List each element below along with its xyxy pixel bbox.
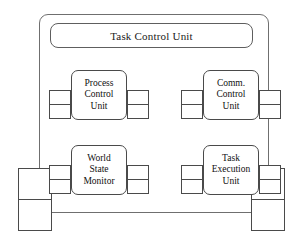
process-control-unit-port-right-upper [127,90,149,105]
task-execution-unit-port-right-upper [259,165,281,180]
task-execution-unit-port-left-upper [181,165,203,180]
module-label-line: Unit [91,101,108,112]
process-control-unit-port-right [127,90,149,120]
page-title: Task Control Unit [110,30,193,42]
module-task-execution-unit: Task Execution Unit [181,145,281,195]
process-control-unit-port-right-lower [127,104,149,119]
process-control-unit-port-left [49,90,71,120]
world-state-monitor-port-left-upper [49,165,71,180]
task-execution-unit-port-right [259,165,281,195]
comm-control-unit-port-left-upper [181,90,203,105]
module-label-line: Process [84,78,113,89]
module-label-line: Execution [212,164,251,175]
module-label-line: Task [222,153,240,164]
external-port-left [18,168,52,230]
comm-control-unit-body: Comm. Control Unit [203,70,259,120]
world-state-monitor-port-right [127,165,149,195]
comm-control-unit-port-left [181,90,203,120]
module-label-line: Monitor [83,176,114,187]
comm-control-unit-port-right [259,90,281,120]
module-label-line: Control [84,89,113,100]
process-control-unit-port-left-upper [49,90,71,105]
process-control-unit-body: Process Control Unit [71,70,127,120]
module-label-line: Unit [223,101,240,112]
process-control-unit-port-left-lower [49,104,71,119]
title-box: Task Control Unit [50,23,253,48]
task-execution-unit-port-left [181,165,203,195]
task-execution-unit-port-right-lower [259,179,281,194]
module-label-line: Comm. [217,78,245,89]
world-state-monitor-port-left [49,165,71,195]
comm-control-unit-port-right-lower [259,104,281,119]
module-world-state-monitor: World State Monitor [49,145,149,195]
diagram-canvas: Task Control Unit Process Control Unit C… [0,0,303,238]
external-port-right-lower [251,199,285,231]
external-port-left-lower [18,199,52,231]
module-label-line: World [87,153,111,164]
world-state-monitor-port-left-lower [49,179,71,194]
module-label-line: Unit [223,176,240,187]
world-state-monitor-body: World State Monitor [71,145,127,195]
module-label-line: Control [216,89,245,100]
world-state-monitor-port-right-upper [127,165,149,180]
comm-control-unit-port-right-upper [259,90,281,105]
comm-control-unit-port-left-lower [181,104,203,119]
module-process-control-unit: Process Control Unit [49,70,149,120]
world-state-monitor-port-right-lower [127,179,149,194]
external-port-left-upper [18,168,52,200]
module-comm-control-unit: Comm. Control Unit [181,70,281,120]
module-label-line: State [90,164,109,175]
task-execution-unit-body: Task Execution Unit [203,145,259,195]
task-execution-unit-port-left-lower [181,179,203,194]
